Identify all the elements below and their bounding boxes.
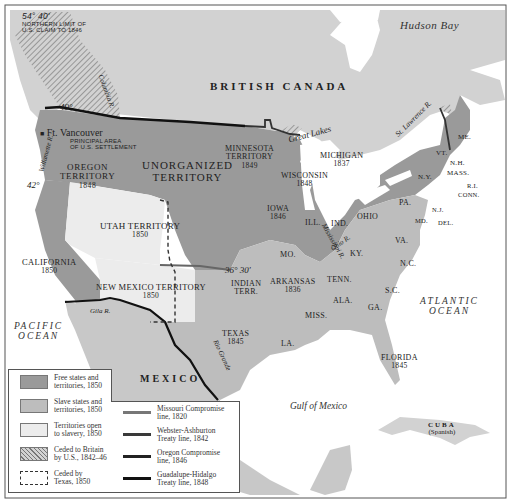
rhode-island-label: R.I. — [467, 183, 478, 190]
guadalupe-hidalgo-line-swatch — [123, 477, 151, 480]
new-mexico-territory-label: NEW MEXICO TERRITORY 1850 — [96, 283, 206, 300]
legend-slave-states: Slave states andterritories, 1850 — [54, 398, 102, 415]
lat-49-label: 49° — [60, 103, 73, 112]
legend-missouri-compromise: Missouri Compromiseline, 1820 — [157, 405, 224, 422]
south-carolina-label: S.C. — [385, 287, 400, 295]
legend-free-states: Free states andterritories, 1850 — [54, 374, 102, 391]
california-label: CALIFORNIA 1850 — [22, 258, 76, 275]
maine-label: ME. — [458, 134, 471, 141]
ceded-texas-swatch — [20, 471, 48, 485]
lat-54-40-label: 54° 40' NORTHERN LIMIT OF U.S. CLAIM TO … — [22, 12, 86, 34]
lat-42-label: 42° — [27, 181, 40, 190]
legend-ceded-britain: Ceded to Britainby U.S., 1842–46 — [54, 446, 107, 463]
webster-ashburton-line-swatch — [123, 433, 151, 436]
massachusetts-label: MASS. — [447, 170, 469, 177]
louisiana-label: LA. — [281, 340, 295, 348]
georgia-label: GA. — [368, 304, 382, 312]
michigan-label: MICHIGAN 1837 — [320, 152, 363, 168]
hudson-bay-label: Hudson Bay — [400, 20, 459, 32]
alabama-label: ALA. — [333, 297, 353, 305]
open-territories-swatch — [20, 423, 48, 437]
free-states-swatch — [20, 375, 48, 389]
oregon-territory-label: OREGON TERRITORY 1848 — [60, 163, 115, 190]
iowa-label: IOWA 1846 — [267, 205, 289, 221]
settlement-area-label: PRINCIPAL AREA OF U.S. SETTLEMENT — [70, 138, 137, 151]
missouri-label: MO. — [280, 251, 296, 259]
oregon-compromise-line-swatch — [123, 455, 151, 458]
illinois-label: ILL. — [305, 219, 321, 227]
pacific-ocean-label: PACIFIC OCEAN — [14, 322, 63, 342]
minnesota-territory-label: MINNESOTA TERRITORY 1849 — [225, 145, 274, 170]
new-jersey-label: N.J. — [432, 207, 444, 214]
map-legend: Free states andterritories, 1850 Slave s… — [8, 369, 243, 493]
ceded-britain-swatch — [20, 447, 48, 461]
pennsylvania-label: PA. — [399, 199, 411, 207]
north-carolina-label: N.C. — [400, 260, 416, 268]
lat-36-30-label: 36° 30' — [225, 266, 251, 275]
texas-label: TEXAS 1845 — [222, 330, 249, 346]
cuba-label: CUBA (Spanish) — [428, 422, 456, 437]
legend-open-territories: Territories opento slavery, 1850 — [54, 422, 102, 439]
vermont-label: VT. — [436, 150, 447, 157]
florida-label: FLORIDA 1845 — [381, 354, 418, 370]
delaware-label: DEL. — [438, 220, 453, 227]
kentucky-label: KY. — [350, 250, 363, 258]
gila-river-label: Gila R. — [90, 308, 110, 315]
maryland-label: MD. — [415, 218, 428, 225]
missouri-compromise-line-swatch — [123, 411, 151, 414]
new-hampshire-label: N.H. — [450, 160, 465, 167]
utah-territory-label: UTAH TERRITORY 1850 — [100, 222, 180, 239]
indiana-label: IND. — [331, 220, 348, 228]
ohio-label: OHIO — [357, 213, 378, 221]
legend-guadalupe-hidalgo: Guadalupe-HidalgoTreaty line, 1848 — [157, 471, 216, 488]
virginia-label: VA. — [395, 237, 408, 245]
arkansas-label: ARKANSAS 1836 — [270, 278, 316, 294]
tennessee-label: TENN. — [327, 276, 352, 284]
connecticut-label: CONN. — [458, 192, 480, 199]
unorganized-territory-label: UNORGANIZED TERRITORY — [142, 160, 233, 183]
wisconsin-label: WISCONSIN 1848 — [281, 172, 328, 188]
british-canada-label: BRITISH CANADA — [210, 81, 348, 93]
legend-ceded-texas: Ceded byTexas, 1850 — [54, 470, 90, 487]
gulf-of-mexico-label: Gulf of Mexico — [290, 402, 347, 412]
atlantic-ocean-label: ATLANTIC OCEAN — [420, 297, 479, 317]
mississippi-label: MISS. — [305, 312, 327, 320]
legend-oregon-compromise: Oregon Compromiseline, 1846 — [157, 449, 220, 466]
slave-states-swatch — [20, 399, 48, 413]
indian-territory-label: INDIAN TERR. — [231, 280, 261, 297]
new-york-label: N.Y. — [418, 174, 432, 181]
legend-webster-ashburton: Webster-AshburtonTreaty line, 1842 — [157, 427, 215, 444]
